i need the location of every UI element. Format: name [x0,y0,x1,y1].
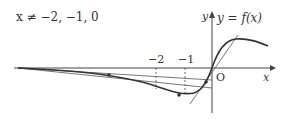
x-axis-arrow-icon [270,65,276,71]
tangent-point-2 [177,93,181,97]
function-curve [18,39,268,94]
y-axis-label: y [202,10,208,23]
function-label: y = f(x) [217,11,262,25]
tick-label-minus1: −1 [178,53,194,66]
tangent-point-1 [107,73,111,77]
tangent-line-3 [190,35,238,104]
x-axis-label: x [263,71,269,84]
y-axis-arrow-icon [209,11,215,18]
tangent-point-3 [204,80,208,84]
tick-label-minus2: −2 [148,53,164,66]
origin-label: O [216,71,225,84]
